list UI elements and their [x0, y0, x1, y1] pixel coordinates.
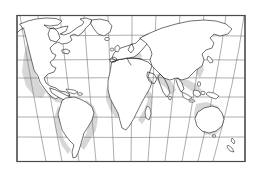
landmass-ireland	[110, 48, 114, 51]
landmass-hispaniola	[77, 93, 82, 96]
landmass-iceland	[105, 37, 110, 40]
landmass-tasmania	[212, 135, 215, 138]
world-map-canvas	[0, 0, 262, 175]
landmass-sulawesi	[201, 91, 205, 95]
world-map-figure	[0, 0, 262, 175]
landmass-sri-lanka	[169, 96, 172, 100]
landmass-philippines	[197, 82, 200, 87]
landmass-indonesia-java	[189, 100, 195, 102]
